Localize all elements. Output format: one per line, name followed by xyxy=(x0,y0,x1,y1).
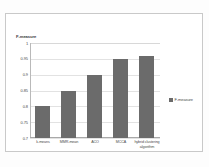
y-axis-tick-label: 1 xyxy=(10,41,28,46)
gridline xyxy=(30,138,160,139)
y-axis-tick-label: 0.8 xyxy=(10,104,28,109)
y-axis-tick-label: 0.75 xyxy=(10,120,28,125)
bar xyxy=(139,56,154,138)
bar xyxy=(113,59,128,138)
legend-label-f-measure: F-measure xyxy=(175,97,193,102)
legend-swatch-f-measure xyxy=(169,98,173,102)
y-axis-tick-label: 0.95 xyxy=(10,56,28,61)
bar-slot xyxy=(82,43,108,138)
y-axis-tick-label: 0.7 xyxy=(10,136,28,141)
bar xyxy=(35,106,50,138)
x-axis-tick-label: hybrid clustering algorithm xyxy=(132,140,162,149)
bar-slot xyxy=(56,43,82,138)
bar-slot xyxy=(134,43,160,138)
x-axis-tick-labels: k-meansMMR-meanACOMCCAhybrid clustering … xyxy=(30,140,160,156)
bar-slot xyxy=(30,43,56,138)
bar xyxy=(61,91,76,139)
y-axis-tick-labels: 10.950.90.850.80.750.7 xyxy=(8,43,28,138)
bar xyxy=(87,75,102,138)
y-axis-tick-label: 0.9 xyxy=(10,72,28,77)
bar-slot xyxy=(108,43,134,138)
figure-frame: F-measure 10.950.90.850.80.750.7 k-means… xyxy=(5,13,203,152)
chart-figure: F-measure 10.950.90.850.80.750.7 k-means… xyxy=(0,0,209,167)
plot-area xyxy=(30,43,160,138)
bar-series xyxy=(30,43,160,138)
y-axis-title: F-measure xyxy=(16,34,36,39)
y-axis-tick-label: 0.85 xyxy=(10,88,28,93)
legend: F-measure xyxy=(169,97,193,102)
